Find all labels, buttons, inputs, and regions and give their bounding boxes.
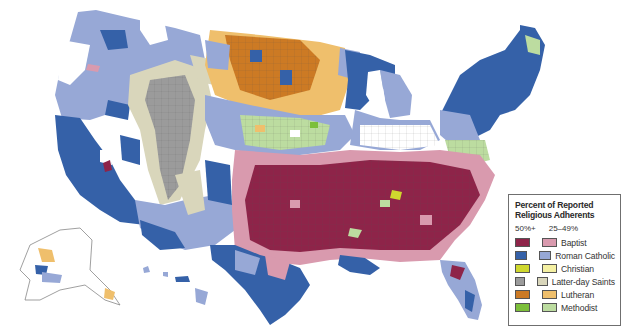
legend-label: Latter-day Saints	[552, 277, 615, 287]
legend-header-low: 25–49%	[549, 224, 578, 233]
legend-row-baptist: Baptist	[515, 236, 615, 249]
map-legend: Percent of Reported Religious Adherents …	[508, 194, 621, 326]
region-southeast-baptist	[232, 150, 495, 270]
legend-title: Percent of Reported Religious Adherents	[515, 200, 615, 220]
legend-label: Christian	[561, 264, 594, 274]
swatch-lds-low	[537, 277, 547, 286]
legend-label: Methodist	[561, 303, 597, 313]
swatch-roman-catholic-high	[515, 251, 527, 260]
legend-column-headers: 50%+ 25–49%	[515, 224, 615, 233]
swatch-methodist-high	[515, 303, 530, 312]
swatch-roman-catholic-low	[539, 251, 551, 260]
legend-row-roman-catholic: Roman Catholic	[515, 249, 615, 262]
legend-label: Roman Catholic	[555, 251, 615, 261]
swatch-methodist-low	[542, 303, 557, 312]
hawaii-inset	[143, 266, 208, 305]
region-florida	[440, 260, 482, 320]
legend-row-christian: Christian	[515, 262, 615, 275]
legend-label: Baptist	[561, 238, 587, 248]
swatch-lds-high	[515, 277, 525, 286]
region-northeast	[440, 25, 545, 165]
swatch-lutheran-high	[515, 290, 530, 299]
swatch-lutheran-low	[542, 290, 557, 299]
swatch-christian-low	[542, 264, 557, 273]
region-great-lakes	[345, 50, 440, 150]
legend-header-high: 50%+	[515, 224, 536, 233]
swatch-baptist-high	[515, 238, 530, 247]
legend-row-latter-day-saints: Latter-day Saints	[515, 275, 615, 288]
swatch-baptist-low	[542, 238, 557, 247]
region-california	[55, 115, 150, 225]
legend-row-methodist: Methodist	[515, 301, 615, 314]
legend-row-lutheran: Lutheran	[515, 288, 615, 301]
swatch-christian-high	[515, 264, 530, 273]
alaska-inset	[20, 228, 120, 305]
legend-label: Lutheran	[561, 290, 594, 300]
